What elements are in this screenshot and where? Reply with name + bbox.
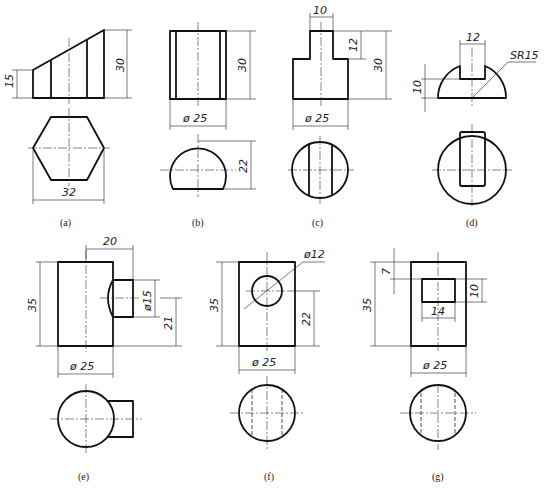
e-dim-35: 35: [26, 298, 39, 312]
f-dim-35: 35: [208, 298, 221, 312]
e-label: (e): [78, 471, 89, 483]
a-front-outline: [33, 30, 104, 98]
c-dim-10: 10: [313, 4, 327, 17]
c-dim-d25: ø 25: [304, 112, 329, 125]
a-dim-32: 32: [62, 186, 76, 199]
d-label: (d): [466, 217, 478, 229]
c-dim-12: 12: [347, 38, 360, 52]
b-dim-30: 30: [236, 58, 249, 72]
f-dim-22: 22: [300, 312, 313, 326]
f-label: (f): [264, 471, 274, 483]
g-label: (g): [432, 471, 444, 483]
f-dim-d12: ø12: [303, 248, 325, 261]
c-label: (c): [312, 217, 323, 229]
b-label: (b): [192, 217, 204, 229]
e-dim-d25: ø 25: [69, 360, 94, 373]
panel-f: ø12 22 35 ø 25 (f): [208, 248, 325, 483]
e-dim-d15: ø15: [141, 290, 154, 312]
panel-b: 30 ø 25 22 (b): [160, 22, 256, 229]
drawing-svg: 15 30 32 (a) 30 ø 25 22 (b): [0, 0, 545, 494]
panel-g: 7 10 14 35 ø 25 (g): [361, 248, 487, 483]
c-dim-30: 30: [372, 58, 385, 72]
g-dim-10: 10: [468, 284, 481, 298]
e-dim-20: 20: [103, 235, 117, 248]
panel-e: 20 ø15 21 35 ø 25 (e): [26, 235, 182, 483]
b-dim-d25: ø 25: [182, 112, 207, 125]
g-dim-7: 7: [380, 268, 393, 275]
b-dim-22: 22: [237, 159, 250, 173]
drawing-canvas: 15 30 32 (a) 30 ø 25 22 (b): [0, 0, 545, 494]
panel-d: 12 SR15 10 (d): [411, 31, 539, 229]
a-dim-15: 15: [3, 74, 16, 88]
f-dim-d25: ø 25: [251, 356, 276, 369]
d-dim-10: 10: [411, 80, 424, 94]
a-label: (a): [60, 217, 71, 229]
g-dim-35: 35: [361, 298, 374, 312]
e-dim-21: 21: [162, 316, 175, 330]
a-dim-30: 30: [114, 58, 127, 72]
panel-a: 15 30 32 (a): [3, 30, 132, 229]
d-dim-12: 12: [466, 31, 480, 44]
g-dim-14: 14: [431, 305, 445, 318]
g-dim-d25: ø 25: [422, 359, 447, 372]
d-dim-sr15: SR15: [510, 49, 539, 62]
panel-c: 10 12 30 ø 25 (c): [288, 4, 392, 229]
a-top-hexagon: [33, 117, 104, 180]
